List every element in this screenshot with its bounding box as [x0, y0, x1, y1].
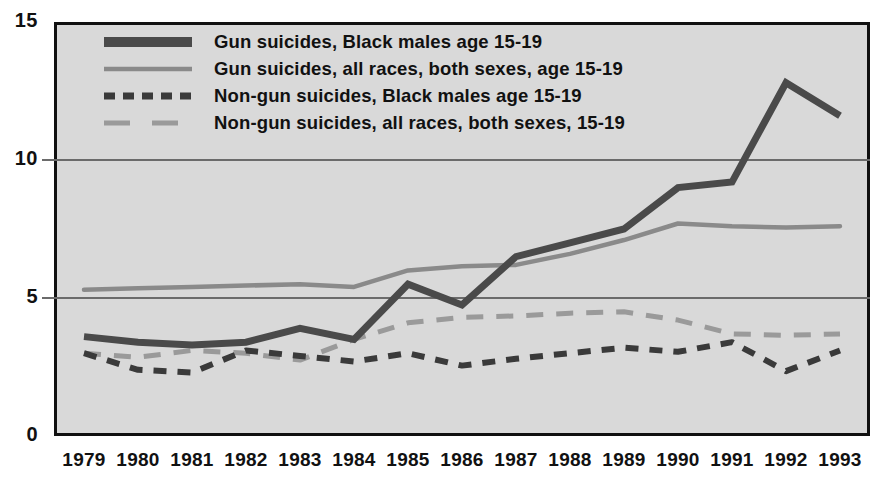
x-axis-tick-label: 1991: [702, 449, 762, 471]
x-axis-tick-label: 1980: [108, 449, 168, 471]
legend-label: Gun suicides, Black males age 15-19: [214, 31, 542, 53]
legend-label: Gun suicides, all races, both sexes, age…: [214, 58, 623, 80]
x-axis-tick-label: 1989: [594, 449, 654, 471]
legend-swatch-gun-all-races: [104, 62, 192, 76]
legend-item: Non-gun suicides, all races, both sexes,…: [104, 109, 644, 136]
x-axis-tick-label: 1985: [378, 449, 438, 471]
solid-thick-dark-icon: [104, 35, 192, 49]
series-line-gun-all-races: [84, 223, 840, 289]
legend-label: Non-gun suicides, all races, both sexes,…: [214, 112, 625, 134]
x-axis-tick-label: 1983: [270, 449, 330, 471]
y-axis-tick-mark: [42, 297, 54, 299]
y-axis-tick-label: 0: [4, 423, 38, 446]
x-axis-tick-label: 1986: [432, 449, 492, 471]
dashed-long-gray-icon: [104, 116, 192, 130]
legend-label: Non-gun suicides, Black males age 15-19: [214, 85, 582, 107]
x-axis-tick-label: 1993: [810, 449, 870, 471]
y-axis-tick-label: 5: [4, 285, 38, 308]
x-axis-tick-label: 1979: [54, 449, 114, 471]
legend-item: Non-gun suicides, Black males age 15-19: [104, 82, 644, 109]
x-axis-tick-label: 1984: [324, 449, 384, 471]
y-axis-tick-label: 10: [4, 147, 38, 170]
series-line-nongun-all-races: [84, 312, 840, 360]
x-axis-tick-label: 1987: [486, 449, 546, 471]
y-axis-tick-label: 15: [4, 9, 38, 32]
suicide-rate-line-chart: Gun suicides, Black males age 15-19 Gun …: [0, 0, 891, 495]
gridlines: [54, 160, 870, 298]
dashed-short-dark-icon: [104, 89, 192, 103]
solid-thin-gray-icon: [104, 62, 192, 76]
chart-legend: Gun suicides, Black males age 15-19 Gun …: [104, 28, 644, 136]
x-axis-tick-label: 1981: [162, 449, 222, 471]
x-axis-tick-label: 1988: [540, 449, 600, 471]
legend-item: Gun suicides, Black males age 15-19: [104, 28, 644, 55]
legend-item: Gun suicides, all races, both sexes, age…: [104, 55, 644, 82]
y-axis-tick-mark: [42, 159, 54, 161]
legend-swatch-nongun-black-males: [104, 89, 192, 103]
legend-swatch-nongun-all-races: [104, 116, 192, 130]
x-axis-tick-label: 1992: [756, 449, 816, 471]
x-axis-tick-label: 1990: [648, 449, 708, 471]
x-axis-tick-label: 1982: [216, 449, 276, 471]
legend-swatch-gun-black-males: [104, 35, 192, 49]
